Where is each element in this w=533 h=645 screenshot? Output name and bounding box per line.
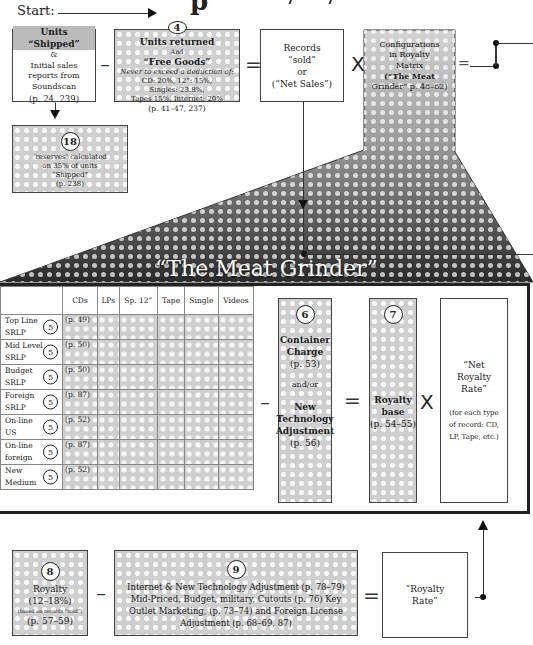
container-ref2: (p. 56) [290, 437, 320, 449]
connector-v [495, 43, 497, 66]
config-line5: Grinder” p. 48–62) [372, 82, 448, 93]
rate-connector-h [475, 597, 482, 598]
cell-ref: (p. 52) [63, 415, 98, 440]
step-7-badge: 7 [384, 305, 403, 324]
grinder-arrow-head-icon [298, 200, 308, 209]
reserves-line3: “Shipped” [52, 171, 88, 180]
row-label: NewMedium5 [1, 465, 63, 490]
cell-ref: (p. 49) [63, 315, 98, 340]
row3-equals-operator: = [363, 583, 380, 607]
row-label-1: On-line [5, 441, 33, 450]
matrix-row: NewMedium5 (p. 52) [1, 465, 254, 490]
matrix-header-videos: Videos [218, 287, 253, 315]
adjust-line1: Internet & New Technology Adjustment (p.… [127, 581, 345, 593]
grinder-equals-operator: = [344, 388, 361, 412]
container-line1: Container [280, 334, 330, 346]
row-label: On-lineUS5 [1, 415, 63, 440]
matrix-row: On-lineUS5 (p. 52) [1, 415, 254, 440]
net-royalty-rate-box: “Net Royalty Rate” (for each type of rec… [440, 298, 508, 503]
config-line3: Matrix [396, 61, 423, 72]
cell-ref: (p. 52) [63, 465, 98, 490]
reserves-line1: ‘reserves’ calculated [33, 153, 107, 162]
royalty-note: (based on records “sold”) [18, 607, 83, 615]
grinder-minus-operator: – [260, 390, 270, 414]
row-label: Top LineSRLP5 [1, 315, 63, 340]
royalty-ref: (p. 57–59) [27, 615, 73, 627]
matrix-row: ForeignSRLP5 (p. 87) [1, 390, 254, 415]
config-line1: Configurations [379, 40, 439, 51]
base-line1: Royalty [374, 394, 411, 406]
reserves-box: 18 ‘reserves’ calculated on 35% of units… [12, 125, 128, 193]
royalty-matrix-table: CDs LPs Sp. 12” Tape Single Videos Top L… [0, 286, 254, 490]
netrate-line2: Royalty [457, 371, 491, 383]
row-label-1: Top Line [5, 316, 38, 325]
step-5-badge: 5 [43, 395, 58, 410]
row-label-1: Mid Level [5, 341, 43, 350]
row-label-1: Budget [5, 366, 32, 375]
royalty-line2: (12–18%) [29, 595, 72, 607]
step-5-badge: 5 [43, 445, 58, 460]
royalty-percent-box: 8 Royalty (12–18%) (based on records “so… [12, 550, 88, 636]
netrate-note1: (for each type [449, 407, 498, 419]
matrix-row: BudgetSRLP5 (p. 50) [1, 365, 254, 390]
equals-operator-2: = [458, 55, 470, 71]
step-5-badge: 5 [43, 345, 58, 360]
adjustments-box: 9 Internet & New Technology Adjustment (… [114, 550, 358, 636]
step-8-badge: 8 [41, 562, 60, 581]
cell-ref: (p. 87) [63, 390, 98, 415]
royalty-line1: Royalty [33, 583, 67, 595]
cell-ref: (p. 50) [63, 365, 98, 390]
reserves-line2: on 35% of units [42, 162, 97, 171]
matrix-header-row: CDs LPs Sp. 12” Tape Single Videos [1, 287, 254, 315]
row3-minus-operator: – [96, 581, 106, 605]
container-line4: Technology [277, 413, 334, 425]
base-ref: (p. 54–55) [370, 418, 416, 430]
row-label-2: SRLP [5, 328, 26, 337]
adjust-line3: Outlet Marketing, (p. 73–74) and Foreign… [129, 605, 343, 617]
step-5-badge: 5 [43, 370, 58, 385]
reserves-ref: (p. 238) [56, 180, 84, 189]
netrate-line1: “Net [463, 359, 484, 371]
matrix-row: On-lineforeign5 (p. 87) [1, 440, 254, 465]
step-5-badge: 5 [43, 420, 58, 435]
cell-ref: (p. 50) [63, 340, 98, 365]
matrix-header-sp12: Sp. 12” [119, 287, 157, 315]
connector-h2 [496, 43, 533, 44]
netrate-line3: Rate” [461, 383, 487, 395]
container-ref1: (p. 53) [290, 358, 320, 370]
row-label-1: On-line [5, 416, 33, 425]
step-9-badge: 9 [227, 560, 246, 579]
step-5-badge: 5 [43, 320, 58, 335]
matrix-row: Mid LevelSRLP5 (p. 50) [1, 340, 254, 365]
matrix-header-single: Single [184, 287, 218, 315]
row-label-1: New [5, 466, 22, 475]
adjust-line4: Adjustment (p. 68–69, 87) [180, 617, 292, 629]
row-label: BudgetSRLP5 [1, 365, 63, 390]
step-6-badge: 6 [296, 305, 315, 324]
row-label-2: SRLP [5, 353, 26, 362]
container-line2: Charge [287, 346, 323, 358]
adjust-line2: Mid-Priced, Budget, military, Cutouts (p… [131, 593, 342, 605]
row-label-2: Medium [5, 478, 36, 487]
configurations-box: Configurations in Royalty Matrix (“The M… [364, 30, 455, 102]
container-charge-box: 6 Container Charge (p. 53) and/or New Te… [278, 298, 332, 503]
row-label: Mid LevelSRLP5 [1, 340, 63, 365]
netrate-note2: of record: CD, [449, 419, 499, 431]
container-andor: and/or [292, 380, 318, 391]
matrix-header-lps: LPs [97, 287, 119, 315]
row-label-1: Foreign [5, 391, 34, 400]
royalty-base-box: 7 Royalty base (p. 54–55) [369, 298, 417, 503]
step-18-badge: 18 [61, 132, 80, 151]
rate-line1: “Royalty [406, 583, 445, 595]
netrate-note3: LP, Tape, etc.) [449, 431, 499, 443]
grinder-connector-h [304, 254, 533, 255]
config-line2: in Royalty [389, 50, 430, 61]
up-arrow-shaft [483, 525, 484, 596]
container-line5: Adjustment [276, 425, 334, 437]
matrix-header-tape: Tape [158, 287, 185, 315]
row-label-2: SRLP [5, 378, 26, 387]
matrix-row: Top LineSRLP5 (p. 49) [1, 315, 254, 340]
royalty-rate-box: “Royalty Rate” [382, 552, 468, 638]
base-line2: base [382, 406, 405, 418]
matrix-header-cds: CDs [63, 287, 98, 315]
